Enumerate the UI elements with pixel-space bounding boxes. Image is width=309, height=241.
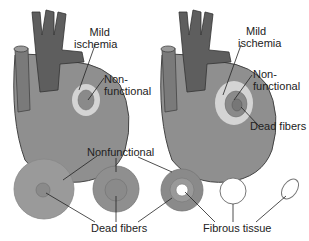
label-text: Mild: [246, 25, 281, 37]
label-mild-ischemia-right: Mild ischemia: [238, 25, 281, 49]
label-text: Mild: [82, 26, 117, 38]
label-dead-fibers-bottom: Dead fibers: [91, 222, 147, 234]
label-nonfunctional-left: Non- functional: [104, 73, 151, 97]
label-text: Non-: [253, 68, 300, 80]
label-text: Non-: [104, 73, 151, 85]
label-nonfunctional-bottom: Nonfunctional: [87, 146, 154, 158]
label-nonfunctional-right: Non- functional: [253, 68, 300, 92]
label-text: ischemia: [74, 38, 117, 50]
label-fibrous-tissue: Fibrous tissue: [203, 222, 271, 234]
label-mild-ischemia-left: Mild ischemia: [82, 26, 117, 50]
label-text: functional: [253, 80, 300, 92]
label-text: ischemia: [238, 37, 281, 49]
label-text: functional: [104, 85, 151, 97]
label-dead-fibers-right: Dead fibers: [250, 120, 306, 132]
